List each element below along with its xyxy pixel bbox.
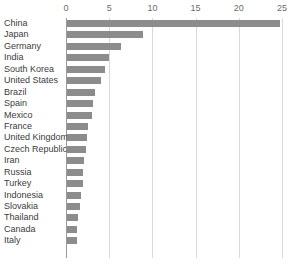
category-label-text: United States (4, 75, 64, 86)
category-label-text: Thailand (4, 212, 64, 223)
x-tick-label: 20 (234, 2, 244, 14)
x-tick-label: 25 (277, 2, 287, 14)
category-label-text: Czech Republic (4, 144, 64, 155)
category-label: Brazil (4, 87, 64, 98)
bar-chart: 0510152025 ChinaJapanGermanyIndiaSouth K… (0, 0, 291, 265)
bar (67, 31, 143, 38)
bar-row: Slovakia (0, 201, 291, 212)
category-label: Russia (4, 167, 64, 178)
category-label-text: Turkey (4, 178, 64, 189)
bar (67, 192, 81, 199)
bar (67, 157, 84, 164)
bar-row: Iran (0, 155, 291, 166)
category-label-text: Mexico (4, 110, 64, 121)
x-tick-label: 15 (191, 2, 201, 14)
category-label: Spain (4, 98, 64, 109)
bar (67, 169, 83, 176)
category-label: Canada (4, 224, 64, 235)
bar-row: Germany (0, 41, 291, 52)
bar-row: China (0, 18, 291, 29)
bar-row: Brazil (0, 87, 291, 98)
category-label-text: United Kingdom (4, 132, 64, 143)
category-label-text: Iran (4, 155, 64, 166)
bar (67, 89, 95, 96)
bar-row: United States (0, 75, 291, 86)
bar (67, 203, 80, 210)
bar (67, 20, 280, 27)
x-tick-label: 0 (63, 2, 68, 14)
bar-row: Japan (0, 29, 291, 40)
bar (67, 43, 121, 50)
bar-row: United Kingdom (0, 132, 291, 143)
category-label: Iran (4, 155, 64, 166)
bar (67, 77, 101, 84)
category-label: Czech Republic (4, 144, 64, 155)
bar-row: Mexico (0, 110, 291, 121)
bar (67, 54, 109, 61)
category-label-text: Japan (4, 29, 64, 40)
bar-row: Canada (0, 224, 291, 235)
category-label-text: South Korea (4, 64, 64, 75)
bar (67, 100, 93, 107)
category-label-text: China (4, 18, 64, 29)
category-label: India (4, 52, 64, 63)
category-label: Japan (4, 29, 64, 40)
category-label-text: India (4, 52, 64, 63)
bar-row: Indonesia (0, 190, 291, 201)
bar (67, 180, 83, 187)
category-label-text: Slovakia (4, 201, 64, 212)
x-tick-label: 10 (147, 2, 157, 14)
bar (67, 123, 88, 130)
x-axis-tick-labels: 0510152025 (66, 2, 282, 16)
category-label: South Korea (4, 64, 64, 75)
category-label: Indonesia (4, 190, 64, 201)
category-label-text: Italy (4, 235, 64, 246)
category-label: Mexico (4, 110, 64, 121)
bar (67, 214, 78, 221)
category-label: Slovakia (4, 201, 64, 212)
bar-row: Italy (0, 235, 291, 246)
category-label: Italy (4, 235, 64, 246)
category-label: France (4, 121, 64, 132)
category-label: Germany (4, 41, 64, 52)
bar-row: India (0, 52, 291, 63)
category-label-text: Indonesia (4, 190, 64, 201)
bar (67, 237, 77, 244)
bar-row: Spain (0, 98, 291, 109)
category-label: Turkey (4, 178, 64, 189)
bar (67, 112, 92, 119)
category-label: United States (4, 75, 64, 86)
bar-row: South Korea (0, 64, 291, 75)
bar-row: France (0, 121, 291, 132)
category-label-text: Russia (4, 167, 64, 178)
bar (67, 226, 77, 233)
category-label-text: France (4, 121, 64, 132)
bar-rows: ChinaJapanGermanyIndiaSouth KoreaUnited … (0, 18, 291, 258)
category-label: United Kingdom (4, 132, 64, 143)
bar (67, 134, 87, 141)
category-label: Thailand (4, 212, 64, 223)
category-label-text: Brazil (4, 87, 64, 98)
bar-row: Czech Republic (0, 144, 291, 155)
category-label-text: Spain (4, 98, 64, 109)
category-label-text: Canada (4, 224, 64, 235)
bar (67, 66, 105, 73)
bar (67, 146, 86, 153)
x-tick-label: 5 (107, 2, 112, 14)
bar-row: Turkey (0, 178, 291, 189)
category-label: China (4, 18, 64, 29)
bar-row: Russia (0, 167, 291, 178)
bar-row: Thailand (0, 212, 291, 223)
category-label-text: Germany (4, 41, 64, 52)
